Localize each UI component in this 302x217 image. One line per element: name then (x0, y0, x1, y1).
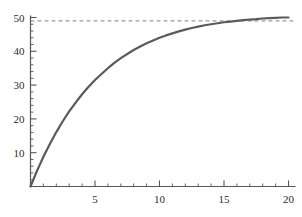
chart-canvas: 51015201020304050 (14, 12, 297, 205)
y-axis-tick-label: 10 (14, 147, 26, 159)
y-axis-tick-label: 40 (14, 45, 26, 57)
x-axis-tick-label: 20 (283, 193, 295, 205)
data-series-line (31, 18, 289, 187)
x-axis-tick-label: 5 (92, 193, 98, 205)
x-axis-tick-label: 10 (154, 193, 166, 205)
y-axis-tick-label: 30 (14, 79, 26, 91)
line-chart: 51015201020304050 (0, 0, 302, 217)
y-axis-tick-label: 20 (14, 113, 26, 125)
chart-figure: 51015201020304050 (0, 0, 302, 217)
x-axis-tick-label: 15 (219, 193, 231, 205)
y-axis-tick-label: 50 (14, 12, 26, 24)
